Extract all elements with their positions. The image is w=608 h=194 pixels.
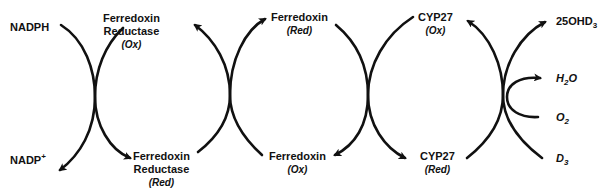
- cyp-red-to-cyp-ox-arrow: [467, 21, 503, 158]
- ferredoxin-reductase-red-label: Ferredoxin Reductase (Red): [133, 150, 190, 189]
- fdx-ox-to-fdx-red-arrow: [230, 19, 265, 155]
- fdx-red-to-fdx-ox-arrow: [335, 25, 368, 155]
- fdr-red-to-fdr-ox-arrow: [195, 25, 230, 152]
- nadp-plus-label: NADP+: [10, 150, 46, 167]
- ferredoxin-reductase-ox-label: Ferredoxin Reductase (Ox): [103, 12, 160, 51]
- ferredoxin-ox-label: Ferredoxin (Ox): [269, 150, 326, 176]
- nadph-label: NADPH: [10, 21, 49, 34]
- o2-label: O2: [556, 111, 569, 128]
- o2-to-h2o-arrow: [507, 78, 540, 117]
- h2o-label: H2O: [556, 72, 577, 89]
- cyp27-ox-label: CYP27 (Ox): [418, 11, 453, 37]
- d3-label: D3: [556, 152, 568, 169]
- cyp-ox-to-cyp-red-arrow: [368, 17, 413, 158]
- nadph-to-nadp-arrow: [60, 25, 95, 170]
- ferredoxin-red-label: Ferredoxin (Red): [271, 11, 328, 37]
- cyp27-red-label: CYP27 (Red): [420, 150, 455, 176]
- 25ohd3-label: 25OHD3: [556, 15, 597, 32]
